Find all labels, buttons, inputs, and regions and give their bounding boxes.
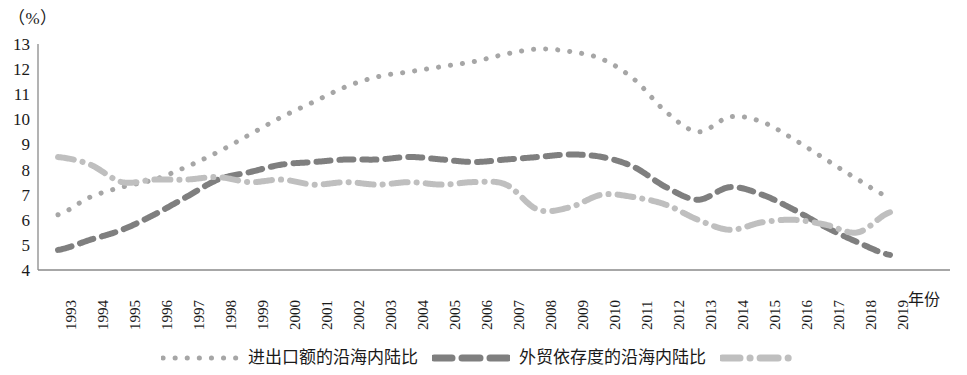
x-axis-tick-label: 2003	[384, 300, 399, 330]
dotted-marker	[161, 351, 239, 365]
axis-lines	[38, 44, 950, 270]
x-axis-tick-label: 2004	[416, 300, 431, 330]
x-axis-tick-label: 2015	[768, 300, 783, 330]
x-axis-tick-label: 2007	[512, 300, 527, 330]
x-axis-tick-label: 1998	[224, 300, 239, 330]
x-axis-tick-label: 2010	[608, 300, 623, 330]
data-series	[58, 49, 890, 215]
legend-entry[interactable]	[720, 351, 807, 365]
x-axis-tick-label: 2013	[704, 300, 719, 330]
legend-label: 外贸依存度的沿海内陆比	[519, 349, 706, 366]
x-axis-tick-label: 2014	[736, 300, 751, 330]
legend-label: 进出口额的沿海内陆比	[248, 349, 418, 366]
x-axis-tick-label: 2001	[320, 300, 335, 330]
x-axis-tick-label: 2009	[576, 300, 591, 330]
x-axis-tick-label: 2006	[480, 300, 495, 330]
x-axis-tick-label: 1997	[192, 300, 207, 330]
x-axis-tick-label: 1999	[256, 300, 271, 330]
x-axis-tick-label: 2016	[800, 300, 815, 330]
dashed-marker	[432, 351, 510, 365]
x-axis-tick-label: 1994	[96, 300, 111, 330]
series-line	[58, 49, 890, 215]
x-axis-tick-label: 2011	[640, 301, 655, 330]
x-axis-tick-label: 2008	[544, 300, 559, 330]
x-axis-tick-label: 2000	[288, 300, 303, 330]
legend-entry[interactable]: 外贸依存度的沿海内陆比	[432, 349, 706, 366]
x-axis-title: 年份	[908, 292, 940, 308]
dash-dot-marker	[720, 351, 798, 365]
x-axis-tick-label: 1996	[160, 300, 175, 330]
x-axis-tick-label: 2018	[864, 300, 879, 330]
x-axis-tick-label: 1995	[128, 300, 143, 330]
chart-container: （%） 13121110987654 199319941995199619971…	[0, 0, 967, 375]
legend-entry[interactable]: 进出口额的沿海内陆比	[161, 349, 418, 366]
chart-legend: 进出口额的沿海内陆比外贸依存度的沿海内陆比	[0, 340, 967, 375]
x-axis-tick-label: 2005	[448, 300, 463, 330]
x-axis-tick-label: 2002	[352, 300, 367, 330]
x-axis-tick-label: 1993	[64, 300, 79, 330]
series-layer	[58, 49, 890, 255]
x-axis-tick-label: 2017	[832, 300, 847, 330]
x-axis-tick-label: 2012	[672, 300, 687, 330]
